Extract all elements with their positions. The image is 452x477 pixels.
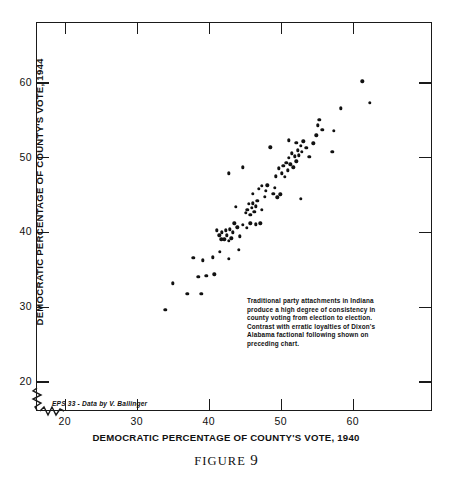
data-point — [300, 150, 303, 153]
data-point — [299, 197, 302, 200]
data-point — [251, 192, 254, 195]
data-point — [225, 234, 228, 237]
data-point — [284, 161, 287, 164]
y-axis-title: DEMOCRATIC PERCENTAGE OF COUNTY'S VOTE, … — [34, 96, 45, 326]
data-point — [222, 237, 225, 240]
data-point — [237, 248, 240, 251]
data-point — [254, 205, 257, 208]
data-point — [227, 257, 230, 260]
y-tick-label: 20 — [14, 375, 32, 387]
data-point — [287, 156, 290, 159]
data-point — [241, 166, 244, 169]
data-point — [163, 308, 166, 311]
data-point — [231, 231, 234, 234]
credit-line: EPS 33 - Data by V. Ballinger — [52, 400, 147, 407]
data-point — [244, 211, 247, 214]
x-axis-title: DEMOCRATIC PERCENTAGE OF COUNTY'S VOTE, … — [0, 432, 452, 443]
x-tick-label: 30 — [131, 415, 143, 427]
data-point — [312, 142, 315, 145]
data-point — [305, 146, 308, 149]
data-point — [257, 187, 260, 190]
data-point — [293, 154, 296, 157]
data-point — [245, 226, 248, 229]
data-point — [282, 164, 285, 167]
data-point — [279, 193, 282, 196]
data-point — [292, 166, 295, 169]
data-point — [287, 139, 290, 142]
data-point — [224, 229, 227, 232]
data-point — [297, 154, 300, 157]
data-point — [211, 255, 214, 258]
data-point — [248, 222, 251, 225]
data-point — [201, 258, 204, 261]
y-tick-label: 50 — [14, 151, 32, 163]
data-point — [192, 256, 195, 259]
data-point — [264, 189, 267, 192]
data-point — [294, 141, 297, 144]
annotation-line: produce a high degree of consistency in — [247, 306, 392, 315]
data-point — [215, 229, 218, 232]
plot-frame — [36, 22, 432, 411]
data-point — [302, 139, 305, 142]
data-point — [277, 166, 280, 169]
x-tick-mark — [353, 399, 354, 410]
data-point — [266, 184, 269, 187]
figure-container: 20304050602030405060 DEMOCRATIC PERCENTA… — [0, 0, 452, 477]
data-point — [197, 275, 200, 278]
y-tick-label: 40 — [14, 225, 32, 237]
figure-caption-number: 9 — [250, 452, 258, 468]
annotation-line: Contrast with erratic loyalties of Dixon… — [247, 323, 392, 332]
data-point — [199, 292, 202, 295]
data-point — [260, 184, 263, 187]
data-point — [248, 213, 251, 216]
x-tick-label: 40 — [203, 415, 215, 427]
data-point — [274, 175, 277, 178]
data-point — [315, 134, 318, 137]
data-point — [330, 150, 333, 153]
data-point — [220, 231, 223, 234]
data-point — [254, 223, 257, 226]
data-point — [318, 118, 321, 121]
data-point — [234, 205, 237, 208]
data-point — [246, 208, 249, 211]
data-point — [256, 199, 259, 202]
data-point — [227, 172, 230, 175]
x-tick-label: 50 — [275, 415, 287, 427]
x-tick-mark — [137, 23, 138, 34]
y-tick-mark — [419, 157, 431, 158]
y-tick-mark — [419, 232, 431, 233]
data-point — [283, 175, 286, 178]
data-point — [218, 250, 221, 253]
data-point — [332, 129, 335, 132]
data-point — [273, 186, 276, 189]
data-point — [276, 196, 279, 199]
annotation-note: Traditional party attachments in Indiana… — [247, 297, 392, 349]
data-point — [235, 226, 238, 229]
y-tick-mark — [37, 381, 49, 382]
data-point — [263, 195, 266, 198]
x-tick-mark — [281, 23, 282, 34]
data-point — [294, 160, 297, 163]
data-point — [361, 80, 364, 83]
annotation-line: Traditional party attachments in Indiana — [247, 297, 392, 306]
x-tick-mark — [281, 399, 282, 410]
data-point — [286, 169, 289, 172]
data-point — [269, 145, 272, 148]
data-point — [320, 128, 323, 131]
plot-area — [37, 23, 431, 410]
x-tick-mark — [209, 399, 210, 410]
data-point — [296, 148, 299, 151]
data-point — [230, 237, 233, 240]
annotation-line: preceding chart. — [247, 340, 392, 349]
figure-caption-word: FIGURE — [194, 454, 246, 468]
data-point — [299, 144, 302, 147]
data-point — [307, 155, 310, 158]
data-point — [238, 234, 241, 237]
data-point — [260, 208, 263, 211]
y-tick-mark — [419, 82, 431, 83]
x-tick-mark — [65, 23, 66, 34]
x-tick-mark — [353, 23, 354, 34]
figure-caption: FIGURE 9 — [0, 452, 452, 469]
data-point — [368, 101, 371, 104]
data-point — [204, 274, 207, 277]
